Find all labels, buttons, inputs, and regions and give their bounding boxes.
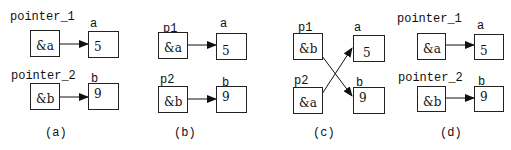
- pointer-1-name: pointer_1: [397, 13, 462, 25]
- p1-box: &a: [158, 32, 188, 59]
- var-a-value: 5: [94, 41, 102, 53]
- var-a-name: a: [354, 22, 361, 34]
- var-a-name: a: [220, 18, 227, 30]
- p1-value: &a: [164, 42, 182, 54]
- pointer-2-value: &b: [36, 93, 54, 105]
- var-a-box: 5: [474, 34, 504, 60]
- var-a-name: a: [90, 18, 97, 30]
- var-b-value: 9: [359, 92, 367, 104]
- pointer-1-box: &a: [30, 30, 60, 57]
- var-b-box: 9: [474, 86, 504, 112]
- pointer-1-box: &a: [417, 33, 446, 60]
- p1-value: &b: [299, 43, 317, 55]
- p2-value: &b: [164, 96, 182, 108]
- var-b-value: 9: [480, 91, 488, 103]
- p1-box: &b: [293, 33, 323, 60]
- pointer-1-value: &a: [36, 40, 54, 52]
- var-a-value: 5: [222, 45, 230, 57]
- var-b-value: 9: [222, 91, 230, 103]
- pointer-2-value: &b: [423, 96, 441, 108]
- p2-name: p2: [294, 75, 308, 87]
- pointer-2-name: pointer_2: [398, 72, 463, 84]
- caption-d: (d): [440, 127, 462, 139]
- caption-a: (a): [45, 127, 67, 139]
- p2-value: &a: [299, 97, 317, 109]
- var-a-box: 5: [216, 33, 247, 60]
- arrow-p2-to-a: [322, 48, 352, 94]
- var-b-box: 9: [353, 87, 385, 114]
- caption-c: (c): [313, 127, 335, 139]
- var-a-name: a: [477, 20, 484, 32]
- pointer-1-value: &a: [423, 43, 441, 55]
- p2-box: &a: [293, 87, 323, 114]
- p2-name: p2: [160, 74, 174, 86]
- pointer-2-box: &b: [417, 86, 446, 112]
- pointer-2-name: pointer_2: [11, 70, 76, 82]
- var-b-box: 9: [88, 83, 119, 110]
- pointer-1-name: pointer_1: [10, 11, 75, 23]
- var-a-value: 5: [480, 45, 488, 57]
- var-a-value: 5: [363, 47, 371, 59]
- var-a-box: 5: [88, 31, 119, 58]
- var-b-value: 9: [94, 88, 102, 100]
- arrow-p1-to-b: [322, 56, 352, 96]
- var-b-box: 9: [216, 86, 247, 113]
- p2-box: &b: [158, 86, 188, 113]
- pointer-2-box: &b: [30, 83, 60, 110]
- caption-b: (b): [174, 127, 196, 139]
- var-a-box: 5: [353, 35, 385, 62]
